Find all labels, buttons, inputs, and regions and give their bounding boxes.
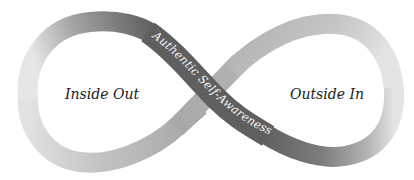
left-loop-lower-band [28, 95, 200, 163]
right-loop-upper-band [232, 24, 394, 92]
left-loop-label: Inside Out [64, 86, 139, 102]
right-loop-label: Outside In [290, 86, 364, 102]
infinity-diagram: Authentic Self-Awareness Inside Out Outs… [0, 0, 414, 180]
